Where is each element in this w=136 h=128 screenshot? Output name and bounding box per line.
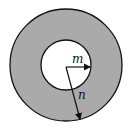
annulus-diagram: m n [0, 0, 136, 128]
inner-circle [41, 40, 91, 90]
inner-radius-label: m [72, 52, 83, 66]
outer-radius-label: n [78, 88, 86, 102]
